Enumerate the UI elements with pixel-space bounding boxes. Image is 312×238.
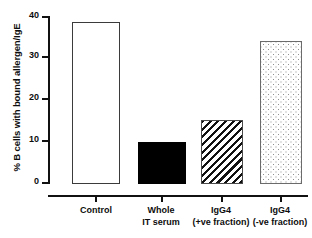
x-tick-mark-control [95,197,97,202]
y-tick-mark-0 [42,182,48,184]
y-tick-label-0: 0 [15,177,39,186]
plot-area: 0 10 20 30 40 [48,16,300,184]
y-tick-mark-30 [42,56,48,58]
x-tick-mark-igg4-positive [221,197,223,202]
x-tick-label-igg4-negative-line1: IgG4 [270,205,290,215]
x-axis-line [48,195,308,197]
y-axis-line [48,16,50,184]
y-tick-mark-40 [42,16,48,18]
x-tick-label-control-line1: Control [80,205,112,215]
y-tick-label-10: 10 [15,135,39,144]
bar-igg4-positive [201,120,243,184]
y-tick-label-30: 30 [15,51,39,60]
y-tick-mark-10 [42,140,48,142]
x-tick-mark-whole-it-serum [161,197,163,202]
y-tick-label-40: 40 [15,11,39,20]
x-tick-mark-igg4-negative [280,197,282,202]
bar-whole-it-serum [138,142,186,184]
x-tick-label-igg4-positive-line1: IgG4 [211,205,231,215]
bar-igg4-negative [260,41,302,184]
bar-chart-figure: % B cells with bound allergen/IgE 0 10 2… [0,0,312,238]
y-tick-mark-20 [42,98,48,100]
x-tick-label-whole-it-serum-line1: Whole [148,205,175,215]
x-tick-label-igg4-negative-line2: (-ve fraction) [241,217,312,229]
y-tick-label-20: 20 [15,93,39,102]
x-tick-label-igg4-negative: IgG4 (-ve fraction) [241,205,312,228]
bar-control [72,22,120,184]
